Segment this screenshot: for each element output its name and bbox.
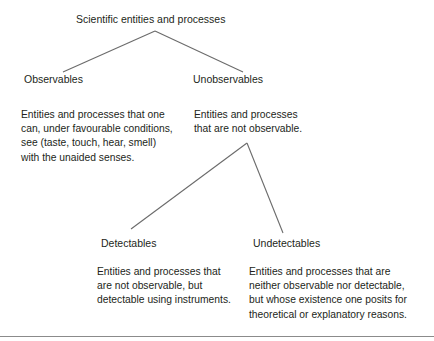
node-undetectables: Undetectables [253, 237, 320, 250]
diagram-canvas: Scientific entities and processes Observ… [0, 0, 434, 341]
description-observables: Entities and processes that one can, und… [21, 108, 173, 165]
description-line: are not observable, but [97, 279, 231, 293]
description-line: see (taste, touch, hear, smell) [21, 136, 173, 150]
description-line: detectable using instruments. [97, 293, 231, 307]
description-line: Entities and processes [194, 108, 302, 122]
node-scientific-entities-and-processes: Scientific entities and processes [76, 13, 225, 26]
description-undetectables: Entities and processes that are neither … [249, 265, 407, 322]
node-observables: Observables [24, 73, 83, 86]
connector-unobservables-to-undetectables [247, 143, 283, 233]
description-line: Entities and processes that one [21, 108, 173, 122]
description-detectables: Entities and processes that are not obse… [97, 265, 231, 308]
description-line: that are not observable. [194, 122, 302, 136]
description-line: with the unaided senses. [21, 151, 173, 165]
description-line: but whose existence one posits for [249, 293, 407, 307]
bottom-divider [0, 336, 434, 337]
description-unobservables: Entities and processes that are not obse… [194, 108, 302, 136]
connector-root-to-unobservables [155, 31, 243, 72]
description-line: theoretical or explanatory reasons. [249, 308, 407, 322]
description-line: Entities and processes that [97, 265, 231, 279]
description-line: Entities and processes that are [249, 265, 407, 279]
connector-root-to-observables [63, 31, 155, 72]
description-line: neither observable nor detectable, [249, 279, 407, 293]
description-line: can, under favourable conditions, [21, 122, 173, 136]
node-detectables: Detectables [101, 237, 156, 250]
node-unobservables: Unobservables [193, 73, 263, 86]
